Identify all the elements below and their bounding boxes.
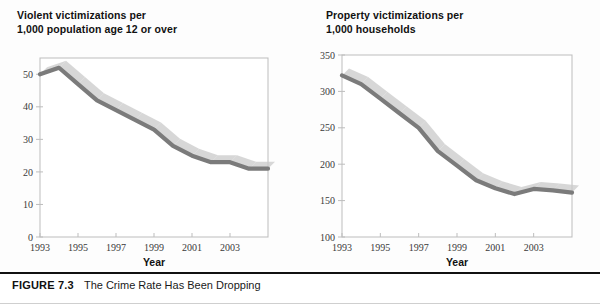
- y-axis-tick-label: 50: [23, 69, 33, 80]
- x-axis-title: Year: [143, 256, 165, 268]
- y-axis-tick-label: 20: [23, 167, 33, 178]
- x-axis-tick-label: 1997: [106, 242, 126, 253]
- plot-frame: [342, 55, 572, 237]
- y-axis-tick-label: 350: [320, 50, 335, 61]
- x-axis-tick-label: 2003: [220, 242, 240, 253]
- y-axis-tick-label: 200: [320, 159, 335, 170]
- y-axis-tick-label: 100: [320, 232, 335, 243]
- x-axis-tick-label: 1999: [447, 242, 467, 253]
- x-axis-tick-label: 2001: [182, 242, 202, 253]
- y-axis-tick-label: 30: [23, 134, 33, 145]
- chart-panel-property: Property victimizations per 1,000 househ…: [300, 0, 600, 270]
- x-axis-tick-label: 1999: [144, 242, 164, 253]
- x-axis-tick-label: 2003: [524, 242, 544, 253]
- x-axis-tick-label: 1995: [68, 242, 88, 253]
- y-axis-tick-label: 150: [320, 195, 335, 206]
- figure-container: Violent victimizations per 1,000 populat…: [0, 0, 600, 270]
- y-axis-tick-label: 250: [320, 122, 335, 133]
- y-axis-tick-label: 10: [23, 199, 33, 210]
- x-axis-tick-label: 1995: [370, 242, 390, 253]
- plot-area-property: 1001502002503003501993199519971999200120…: [300, 0, 600, 270]
- caption-top-rule: [0, 272, 600, 274]
- line-chart-property-svg: 1001502002503003501993199519971999200120…: [300, 0, 600, 270]
- plot-area-violent: 01020304050199319951997199920012003Year: [0, 0, 300, 270]
- chart-panel-violent: Violent victimizations per 1,000 populat…: [0, 0, 300, 270]
- y-axis-tick-label: 0: [28, 232, 33, 243]
- line-chart-violent-svg: 01020304050199319951997199920012003Year: [0, 0, 300, 270]
- x-axis-tick-label: 2001: [485, 242, 505, 253]
- x-axis-tick-label: 1993: [30, 242, 50, 253]
- figure-caption-text: The Crime Rate Has Been Dropping: [84, 279, 261, 291]
- x-axis-tick-label: 1993: [332, 242, 352, 253]
- x-axis-tick-label: 1997: [409, 242, 429, 253]
- caption-bottom-rule: [0, 303, 600, 304]
- figure-caption: FIGURE 7.3 The Crime Rate Has Been Dropp…: [0, 272, 600, 305]
- figure-number: FIGURE 7.3: [12, 279, 74, 291]
- y-axis-tick-label: 40: [23, 101, 33, 112]
- plot-frame: [40, 58, 268, 237]
- y-axis-tick-label: 300: [320, 86, 335, 97]
- x-axis-title: Year: [446, 256, 468, 268]
